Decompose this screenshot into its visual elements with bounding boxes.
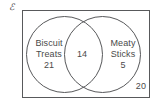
universal-set-symbol: ℰ: [9, 2, 14, 12]
set-count-outside: 20: [126, 81, 146, 92]
venn-diagram-figure: ℰ Biscuit Treats 21 14 Meaty Sticks 5 20: [0, 0, 155, 106]
set-name-line-2: Sticks: [104, 49, 142, 60]
set-count-meaty-sticks-only: 5: [104, 60, 142, 71]
set-name-line-1: Meaty: [104, 38, 142, 49]
set-count-intersection: 14: [68, 49, 96, 60]
region-label-biscuit-treats-only: Biscuit Treats 21: [30, 38, 68, 71]
region-label-meaty-sticks-only: Meaty Sticks 5: [104, 38, 142, 71]
set-count-biscuit-treats-only: 21: [30, 60, 68, 71]
region-label-intersection: 14: [68, 49, 96, 60]
region-label-outside-sets: 20: [126, 81, 146, 92]
set-name-line-1: Biscuit: [30, 38, 68, 49]
set-name-line-2: Treats: [30, 49, 68, 60]
